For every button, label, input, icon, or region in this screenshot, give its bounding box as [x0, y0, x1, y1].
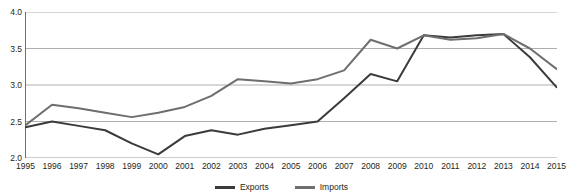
legend-entry-exports[interactable]: Exports — [215, 183, 269, 192]
x-tick-label: 1995 — [16, 162, 35, 171]
x-tick-label: 2008 — [361, 162, 380, 171]
x-tick-label: 2012 — [467, 162, 486, 171]
x-tick-label: 2002 — [202, 162, 221, 171]
x-tick-label: 1998 — [96, 162, 115, 171]
x-tick-label: 1996 — [43, 162, 62, 171]
x-tick-label: 2014 — [520, 162, 539, 171]
y-tick-label: 2.5 — [10, 118, 22, 127]
series-line-exports — [26, 34, 557, 154]
x-tick-label: 2001 — [175, 162, 194, 171]
x-tick-label: 2013 — [494, 162, 513, 171]
x-tick-label: 2003 — [228, 162, 247, 171]
y-axis: 4.03.53.02.52.0 — [0, 0, 24, 170]
chart-legend: ExportsImports — [0, 180, 563, 194]
x-tick-label: 2000 — [149, 162, 168, 171]
y-tick-label: 3.0 — [10, 81, 22, 90]
x-tick-label: 2011 — [441, 162, 459, 171]
y-tick-label: 4.0 — [10, 8, 22, 17]
x-tick-label: 2007 — [335, 162, 354, 171]
legend-entry-imports[interactable]: Imports — [295, 183, 348, 192]
x-axis: 1995199619971998199920002001200220032004… — [25, 162, 557, 176]
x-tick-label: 2006 — [308, 162, 327, 171]
legend-label: Imports — [320, 183, 348, 192]
x-tick-label: 1999 — [122, 162, 141, 171]
x-tick-label: 2005 — [282, 162, 301, 171]
series-line-imports — [26, 34, 557, 125]
x-tick-label: 2015 — [547, 162, 566, 171]
y-tick-label: 3.5 — [10, 45, 22, 54]
plot-svg — [25, 12, 557, 158]
x-tick-label: 2009 — [388, 162, 407, 171]
legend-label: Exports — [240, 183, 269, 192]
legend-swatch-icon — [215, 186, 235, 189]
x-tick-label: 2010 — [414, 162, 433, 171]
plot-area — [25, 12, 557, 158]
legend-swatch-icon — [295, 186, 315, 189]
x-tick-label: 2004 — [255, 162, 274, 171]
x-tick-label: 1997 — [69, 162, 88, 171]
